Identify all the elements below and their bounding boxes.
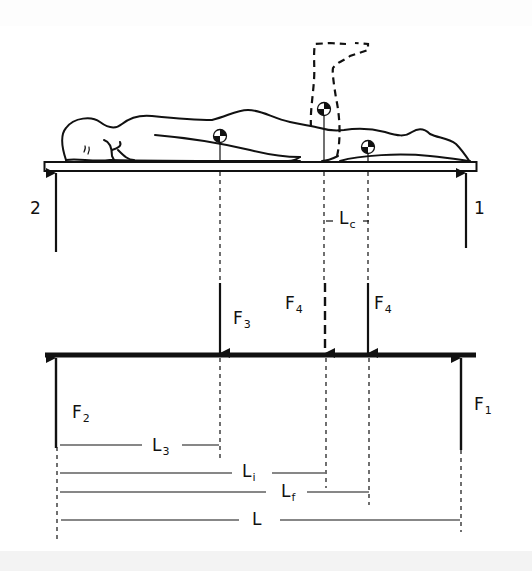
f3-label: F3 [233,310,251,330]
cg-marker-leg-lowered [362,141,375,154]
cg-marker-leg-raised [318,103,331,116]
f2-label: F2 [72,404,90,424]
f1-label: F1 [474,396,492,416]
reaction-board [45,162,477,171]
li-label: Li [242,463,256,483]
f4-final-label: F4 [374,295,392,315]
free-body-diagram [0,0,532,571]
cg-marker-trunk [214,130,227,143]
f4-initial-label: F4 [285,295,303,315]
l3-label: L3 [152,437,169,457]
lf-label: Lf [281,483,295,503]
lc-label: Lc [339,210,356,230]
raised-leg-dashed-outline [311,43,368,156]
prone-person-outline [62,110,470,162]
support-label-right: 1 [474,200,485,217]
support-label-left: 2 [30,200,41,217]
l-label: L [252,511,261,528]
